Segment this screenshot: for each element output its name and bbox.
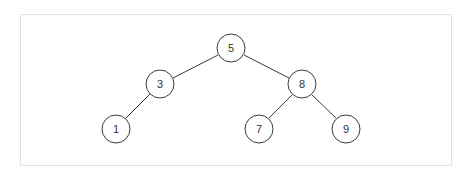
node-label: 9 (343, 123, 349, 135)
tree-node-9: 9 (332, 115, 360, 143)
edge-5-3 (173, 55, 218, 78)
node-label: 3 (157, 78, 163, 90)
tree-node-3: 3 (146, 70, 174, 98)
edge-5-8 (244, 55, 289, 78)
edge-8-9 (312, 95, 336, 118)
node-label: 5 (228, 42, 234, 54)
edge-3-1 (126, 94, 150, 118)
edge-8-7 (269, 95, 292, 118)
tree-node-7: 7 (245, 115, 273, 143)
tree-node-8: 8 (288, 70, 316, 98)
tree-node-1: 1 (102, 115, 130, 143)
node-label: 7 (256, 123, 262, 135)
binary-tree-diagram: 5 3 8 1 7 9 (0, 0, 468, 175)
node-label: 1 (113, 123, 119, 135)
node-label: 8 (299, 78, 305, 90)
tree-node-5: 5 (217, 34, 245, 62)
